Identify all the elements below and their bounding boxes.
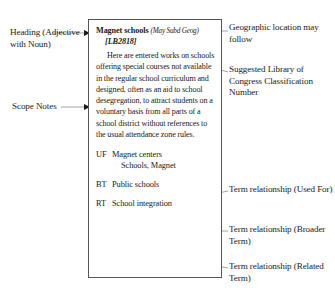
scope-note-text: Here are entered works on schools offeri… <box>96 50 216 140</box>
record-content: Magnet schools (May Subd Geog) [LB2818] … <box>96 26 216 217</box>
subject-heading-record-box: Magnet schools (May Subd Geog) [LB2818] … <box>88 19 222 278</box>
xref-term-schools-magnet: Schools, Magnet <box>121 160 176 171</box>
callout-classification-number: Suggested Library of Congress Classifica… <box>229 64 333 99</box>
cross-reference-rt: RTSchool integration <box>96 198 216 209</box>
xref-term-magnet-centers: Magnet centers <box>112 150 162 159</box>
callout-geographic-location: Geographic location may follow <box>229 22 333 45</box>
diagram-canvas: Magnet schools (May Subd Geog) [LB2818] … <box>0 0 335 299</box>
xref-term-school-integration: School integration <box>112 198 172 209</box>
classification-number: [LB2818] <box>105 36 216 47</box>
xref-code-bt: BT <box>96 179 112 190</box>
cross-reference-uf: UFMagnet centersSchools, Magnet <box>96 149 216 171</box>
callout-term-relationship-related-term: Term relationship (Related Term) <box>229 261 333 284</box>
callout-term-relationship-used-for: Term relationship (Used For) <box>229 184 333 196</box>
cross-reference-list: UFMagnet centersSchools, Magnet BTPublic… <box>96 149 216 209</box>
callout-scope-notes: Scope Notes <box>12 101 88 113</box>
heading-term: Magnet schools <box>96 26 149 35</box>
xref-term-public-schools: Public schools <box>112 179 159 190</box>
callout-heading: Heading (Adjective with Noun) <box>10 27 88 50</box>
callout-term-relationship-broader-term: Term relationship (Broader Term) <box>229 224 333 247</box>
xref-code-rt: RT <box>96 198 112 209</box>
heading-line: Magnet schools (May Subd Geog) <box>96 26 216 36</box>
xref-terms-uf: Magnet centersSchools, Magnet <box>112 149 176 171</box>
xref-code-uf: UF <box>96 149 112 160</box>
heading-subdivision: (May Subd Geog) <box>151 27 199 35</box>
cross-reference-bt: BTPublic schools <box>96 179 216 190</box>
